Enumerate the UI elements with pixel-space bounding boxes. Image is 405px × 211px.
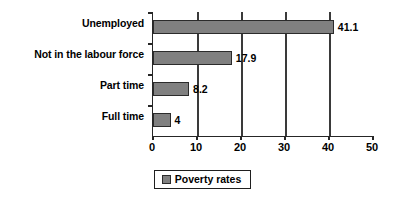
bar-value-part-time: 8.2: [193, 82, 208, 96]
x-axis-labels: 0 10 20 30 40 50: [152, 140, 372, 156]
bar-row: 17.9: [153, 51, 373, 65]
bar-full-time[interactable]: [153, 113, 171, 127]
poverty-rates-bar-chart: Unemployed Not in the labour force Part …: [0, 0, 405, 211]
x-axis-label-50: 50: [366, 140, 378, 154]
bar-row: 8.2: [153, 82, 373, 96]
x-axis-label-10: 10: [190, 140, 202, 154]
bar-value-not-in-labour-force: 17.9: [236, 51, 256, 65]
legend-label-poverty-rates: Poverty rates: [175, 173, 242, 185]
bar-value-full-time: 4: [175, 113, 181, 127]
legend-box[interactable]: Poverty rates: [154, 170, 252, 189]
legend: Poverty rates: [0, 170, 405, 189]
bar-value-unemployed: 41.1: [338, 20, 358, 34]
bar-row: 4: [153, 113, 373, 127]
x-axis-label-30: 30: [278, 140, 290, 154]
category-label-part-time: Part time: [0, 79, 144, 91]
bar-row: 41.1: [153, 20, 373, 34]
category-label-not-in-labour-force: Not in the labour force: [0, 48, 144, 60]
bars-group: 41.1 17.9 8.2 4: [153, 12, 373, 136]
plot-area: 41.1 17.9 8.2 4: [152, 12, 373, 137]
x-axis-label-0: 0: [149, 140, 155, 154]
category-axis: Unemployed Not in the labour force Part …: [0, 12, 148, 136]
bar-unemployed[interactable]: [153, 20, 334, 34]
x-axis-label-20: 20: [234, 140, 246, 154]
category-label-full-time: Full time: [0, 110, 144, 122]
category-label-unemployed: Unemployed: [0, 17, 144, 29]
x-axis-label-40: 40: [322, 140, 334, 154]
legend-swatch-icon: [162, 175, 171, 184]
bar-not-in-labour-force[interactable]: [153, 51, 232, 65]
bar-part-time[interactable]: [153, 82, 189, 96]
